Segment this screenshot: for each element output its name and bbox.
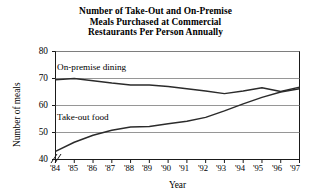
axis-ticks [52,52,300,164]
series-line-take-out-food [56,89,300,152]
series-line-on-premise-dining [56,79,300,94]
chart-figure: Number of Take-Out and On-Premise Meals … [0,0,311,195]
grid-lines [56,52,300,133]
plot-area [0,0,311,195]
data-lines [56,79,300,152]
